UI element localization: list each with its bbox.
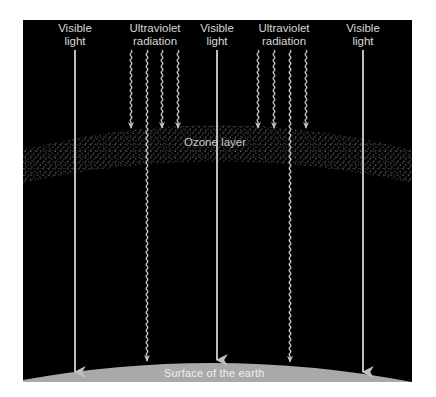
earth-surface-label: Surface of the earth — [164, 367, 265, 379]
label-line: Visible — [343, 22, 383, 35]
label-visible-light-2: Visible light — [197, 22, 237, 48]
uv-ray — [257, 50, 259, 128]
label-line: radiation — [251, 35, 317, 48]
label-line: radiation — [122, 35, 188, 48]
uv-ray — [273, 50, 275, 128]
label-line: light — [343, 35, 383, 48]
label-line: light — [55, 35, 95, 48]
label-line: Ultraviolet — [251, 22, 317, 35]
label-visible-light-3: Visible light — [343, 22, 383, 48]
label-line: Visible — [55, 22, 95, 35]
ozone-layer-label: Ozone layer — [184, 136, 246, 148]
label-visible-light-1: Visible light — [55, 22, 95, 48]
label-line: Visible — [197, 22, 237, 35]
label-line: light — [197, 35, 237, 48]
uv-ray — [161, 50, 163, 128]
ozone-diagram: Visible light Ultraviolet radiation Visi… — [0, 0, 436, 397]
label-line: Ultraviolet — [122, 22, 188, 35]
label-uv-radiation-2: Ultraviolet radiation — [251, 22, 317, 48]
label-uv-radiation-1: Ultraviolet radiation — [122, 22, 188, 48]
uv-ray — [130, 50, 132, 128]
uv-ray — [305, 50, 307, 128]
diagram-canvas — [0, 0, 436, 397]
uv-ray — [177, 50, 179, 128]
